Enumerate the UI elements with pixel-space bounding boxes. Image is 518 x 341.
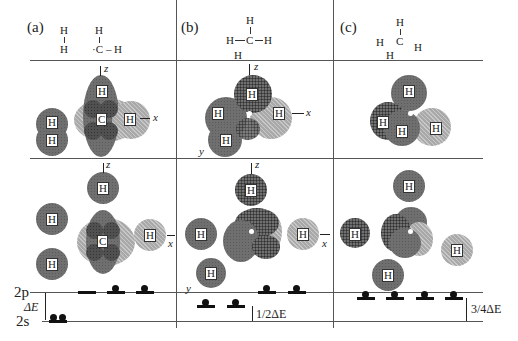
three-quarter-delta-e-arrow <box>466 298 467 321</box>
z-axis-label: z <box>106 158 110 170</box>
half-delta-e-arrow <box>252 306 253 321</box>
formula-ch-right: H <box>114 44 122 55</box>
x-axis-label: x <box>153 111 158 123</box>
electron <box>450 291 457 298</box>
h-label: H <box>403 85 415 98</box>
delta-e-arrow <box>45 293 46 320</box>
h-label: H <box>382 269 394 282</box>
y-axis-label: y <box>199 145 204 157</box>
x-axis-label: x <box>306 106 311 118</box>
carbon-nucleus <box>408 111 413 116</box>
panel-label-c: (c) <box>340 20 357 35</box>
formula-top-h: H <box>396 17 404 28</box>
h-label: H <box>396 125 408 138</box>
sp3-lobe-bottom <box>252 235 280 259</box>
column-divider-2 <box>333 0 334 328</box>
h-label: H <box>195 228 207 241</box>
h-label: H <box>246 88 258 101</box>
formula-left-h: H <box>226 35 234 46</box>
h-label: H <box>46 258 58 271</box>
electron <box>112 285 119 292</box>
level-label-2p: 2p <box>14 285 29 300</box>
h-label: H <box>205 267 217 280</box>
h-label: H <box>273 107 285 120</box>
h-label: H <box>297 228 309 241</box>
formula-right-h: H <box>264 35 272 46</box>
formula-left-h: H <box>376 37 384 48</box>
h-label: H <box>46 116 58 129</box>
h-label: H <box>220 134 232 147</box>
carbon-nucleus <box>408 229 413 234</box>
electron <box>202 299 209 306</box>
bond <box>255 40 263 41</box>
formula-center-c: C <box>396 36 403 47</box>
h-label: H <box>403 180 415 193</box>
h-label: H <box>349 228 361 241</box>
panel-label-b: (b) <box>181 20 199 35</box>
carbon-nucleus <box>247 111 252 116</box>
formula-bottom-h: H <box>234 50 242 61</box>
electron <box>293 285 300 292</box>
formula-ch-top: H <box>95 25 103 36</box>
c-label: C <box>97 235 108 248</box>
h-label: H <box>97 182 109 195</box>
electron <box>141 285 148 292</box>
x-axis-arrow <box>167 235 175 236</box>
half-delta-e-label: 1/2ΔE <box>256 307 286 322</box>
h-label: H <box>212 107 224 120</box>
z-axis-arrow <box>251 163 252 174</box>
electron <box>232 299 239 306</box>
z-axis-arrow <box>100 66 101 76</box>
z-axis-arrow <box>103 163 104 173</box>
z-axis-label: z <box>255 158 259 170</box>
h-label: H <box>144 229 156 242</box>
formula-bottom-h: H <box>386 50 394 61</box>
h-label: H <box>46 134 58 147</box>
h-label: H <box>377 116 389 129</box>
z-axis-label: z <box>104 62 108 74</box>
x-axis-arrow <box>320 234 330 235</box>
z-axis-arrow <box>249 64 250 75</box>
formula-ch-bond: – <box>106 44 112 55</box>
y-axis-label: y <box>186 282 191 294</box>
x-axis-label: x <box>168 237 173 249</box>
formula-h2-bottom: H <box>60 44 68 55</box>
z-axis-label: z <box>254 60 258 72</box>
formula-right-h: H <box>414 42 422 53</box>
formula-ch-carbon: ·C <box>92 44 103 55</box>
electron <box>50 314 57 321</box>
h-label: H <box>96 85 108 98</box>
bond <box>235 40 245 41</box>
sp3-lobe-bottom <box>389 228 421 258</box>
electron <box>263 285 270 292</box>
electron <box>362 291 369 298</box>
h-label: H <box>451 244 463 257</box>
formula-top-h: H <box>246 15 254 26</box>
column-divider-1 <box>176 0 177 328</box>
electron <box>391 291 398 298</box>
delta-e-label: ΔE <box>24 300 38 315</box>
level-line-2p <box>30 292 483 293</box>
level-label-2s: 2s <box>16 314 29 329</box>
three-quarter-delta-e-label: 3/4ΔE <box>471 302 501 317</box>
electron <box>59 314 66 321</box>
panel-label-a: (a) <box>27 20 44 35</box>
h-label: H <box>430 122 442 135</box>
x-axis-label: x <box>322 237 327 249</box>
h-label: H <box>124 113 136 126</box>
h-label: H <box>46 213 58 226</box>
x-axis-arrow <box>292 113 304 114</box>
formula-h2-top: H <box>60 25 68 36</box>
x-axis-arrow <box>140 118 150 119</box>
2p-level-empty <box>78 291 96 294</box>
h-label: H <box>245 184 257 197</box>
sp3-lobe <box>236 118 260 140</box>
electron <box>421 291 428 298</box>
carbon-nucleus <box>249 229 254 234</box>
bond <box>250 27 251 34</box>
formula-center-c: C <box>246 35 253 46</box>
c-label: C <box>96 113 107 126</box>
